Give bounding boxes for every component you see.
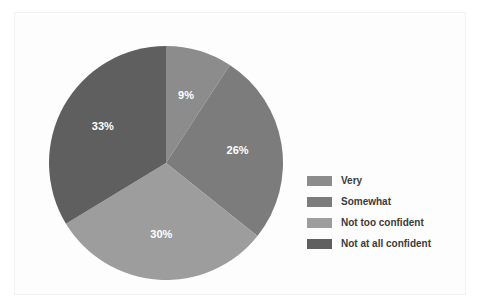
- legend-item-label: Somewhat: [341, 197, 391, 207]
- pie-data-label: 26%: [227, 144, 249, 156]
- legend-item[interactable]: Somewhat: [307, 191, 457, 212]
- chart-legend: VerySomewhatNot too confidentNot at all …: [307, 170, 457, 254]
- pie-chart-svg: 9%26%30%33%: [48, 45, 284, 281]
- legend-color-swatch: [307, 239, 332, 249]
- pie-data-label: 33%: [92, 120, 114, 132]
- legend-item[interactable]: Not too confident: [307, 212, 457, 233]
- legend-color-swatch: [307, 176, 332, 186]
- pie-chart-plot-area: 9%26%30%33%: [48, 45, 284, 281]
- pie-slice-group: [49, 46, 283, 280]
- pie-data-label: 30%: [150, 228, 172, 240]
- legend-item[interactable]: Very: [307, 170, 457, 191]
- legend-color-swatch: [307, 218, 332, 228]
- legend-item-label: Not at all confident: [341, 239, 431, 249]
- legend-item-label: Very: [341, 176, 362, 186]
- legend-item-label: Not too confident: [341, 218, 424, 228]
- legend-item[interactable]: Not at all confident: [307, 233, 457, 254]
- legend-color-swatch: [307, 197, 332, 207]
- pie-data-label: 9%: [178, 89, 194, 101]
- pie-chart-figure: 9%26%30%33% VerySomewhatNot too confiden…: [0, 0, 481, 308]
